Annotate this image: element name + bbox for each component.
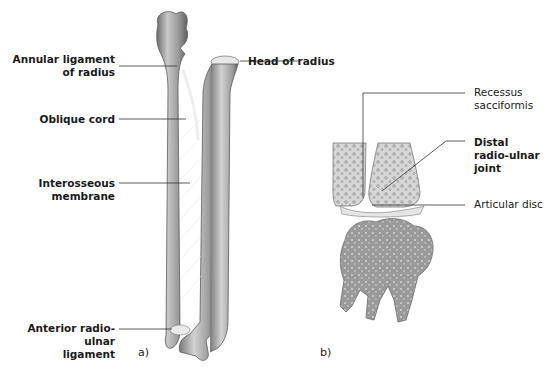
articular-disc: [340, 206, 424, 217]
label-interosseous-membrane: Interosseous membrane: [10, 177, 115, 203]
label-annular-ligament: Annular ligament of radius: [10, 53, 115, 79]
interosseous-membrane: [180, 120, 201, 300]
radius-bone: [179, 56, 239, 360]
label-oblique-cord: Oblique cord: [10, 113, 115, 126]
ulna-distal: [333, 143, 366, 206]
panel-b-letter: b): [320, 346, 331, 359]
radius-distal: [369, 143, 420, 207]
label-articular-disc: Articular disc: [474, 198, 543, 211]
panel-a-letter: a): [138, 346, 149, 359]
label-recessus-sacciformis: Recessus sacciformis: [474, 86, 533, 112]
anterior-ligament-shape: [170, 325, 190, 335]
label-distal-radio-ulnar-joint: Distal radio-ulnar joint: [474, 136, 540, 175]
carpal-bones: [340, 219, 433, 322]
label-anterior-radio-ulnar-ligament: Anterior radio-ulnar ligament: [0, 322, 115, 361]
label-head-of-radius: Head of radius: [248, 55, 335, 68]
